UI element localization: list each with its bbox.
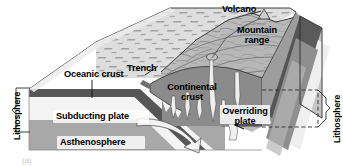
label-trench: Trench xyxy=(127,64,157,74)
figure-caption-mark: (a) xyxy=(22,156,32,165)
label-volcano: Volcano xyxy=(222,5,256,15)
label-oceanic-crust: Oceanic crust xyxy=(64,70,123,80)
label-overriding-plate: Overriding plate xyxy=(222,107,268,126)
secondary-vent xyxy=(207,54,218,61)
subduction-zone-figure: Volcano Mountain range Trench Oceanic cr… xyxy=(0,0,343,167)
label-asthenosphere: Asthenosphere xyxy=(60,138,126,148)
label-mountain-range: Mountain range xyxy=(233,26,281,45)
label-subducting-plate: Subducting plate xyxy=(56,112,129,122)
label-continental-crust: Continental crust xyxy=(165,83,219,102)
label-lithosphere-left: Lithosphere xyxy=(13,92,22,140)
label-lithosphere-right: Lithosphere xyxy=(333,95,342,143)
